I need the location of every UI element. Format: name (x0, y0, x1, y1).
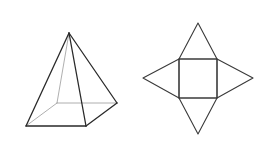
visible-edge-apex-front_left (26, 33, 69, 126)
diagram-canvas (0, 0, 268, 152)
net-triangle-bottom (179, 98, 217, 134)
square-pyramid-3d (26, 33, 117, 126)
pyramid-and-net-figure (0, 0, 268, 152)
visible-edge-apex-front_right (69, 33, 86, 126)
square-pyramid-net (143, 23, 253, 134)
net-square-base (179, 59, 217, 98)
visible-edge-apex-back_right (69, 33, 117, 103)
net-triangle-right (217, 59, 253, 98)
net-triangle-top (179, 23, 217, 59)
hidden-edge-apex-back_left (57, 33, 69, 103)
visible-edge-front_right-back_right (86, 103, 117, 126)
net-triangle-left (143, 59, 179, 98)
